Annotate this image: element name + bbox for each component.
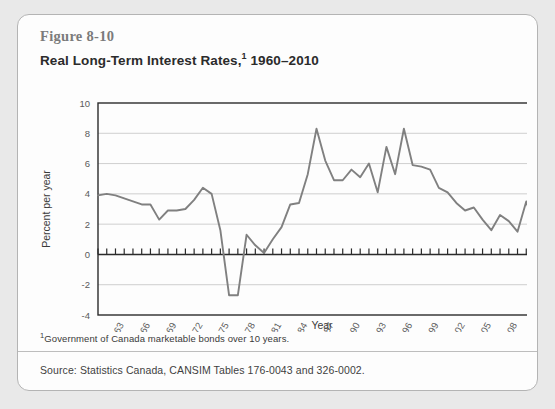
y-tick-label: 10	[79, 98, 90, 109]
source-line: Source: Statistics Canada, CANSIM Tables…	[40, 364, 365, 376]
y-tick-label: -2	[82, 279, 90, 290]
footnote: 1Government of Canada marketable bonds o…	[40, 331, 289, 344]
y-tick-label: -4	[82, 310, 90, 321]
figure-title-main: Real Long-Term Interest Rates,	[40, 53, 242, 68]
x-axis-title: Year	[311, 319, 333, 331]
chart-plot-area: -4-20246810 1963196619691972197519781981…	[32, 77, 527, 332]
x-tick-label: 2008	[499, 321, 519, 333]
figure-number: Figure 8-10	[40, 27, 480, 45]
figure-header: Figure 8-10 Real Long-Term Interest Rate…	[40, 27, 480, 71]
x-tick-label: 1993	[368, 321, 388, 333]
x-tick-label: 2005	[473, 321, 493, 333]
x-tick-label: 1990	[342, 321, 362, 333]
source-divider	[18, 351, 537, 352]
data-series-line	[98, 129, 527, 296]
y-axis-title: Percent per year	[40, 170, 52, 248]
figure-card: Figure 8-10 Real Long-Term Interest Rate…	[17, 14, 538, 391]
footnote-text: Government of Canada marketable bonds ov…	[44, 333, 289, 344]
line-chart: -4-20246810 1963196619691972197519781981…	[32, 77, 527, 332]
x-tick-label: 1996	[394, 321, 414, 333]
x-tick-label: 1984	[289, 321, 309, 333]
y-tick-label: 6	[85, 158, 90, 169]
zero-line-ticks	[98, 248, 527, 254]
y-tick-label: 4	[85, 188, 90, 199]
x-tick-label: 2002	[447, 321, 467, 333]
y-axis-tick-labels: -4-20246810	[79, 98, 90, 321]
figure-title-years: 1960–2010	[247, 53, 319, 68]
x-tick-label: 1999	[420, 321, 440, 333]
y-tick-label: 8	[85, 128, 90, 139]
y-tick-label: 0	[85, 249, 90, 260]
figure-title: Real Long-Term Interest Rates,1 1960–201…	[40, 46, 480, 71]
y-tick-label: 2	[85, 219, 90, 230]
